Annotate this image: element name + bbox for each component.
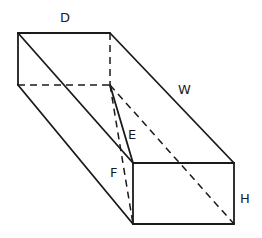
edge-width-w — [110, 33, 234, 163]
diagram-svg: D W E F H — [0, 0, 262, 238]
label-d: D — [60, 10, 70, 25]
box-diagram: D W E F H — [0, 0, 262, 238]
label-e: E — [128, 127, 136, 142]
edge-top-left-long — [18, 33, 133, 163]
diagonal-bottom-hidden — [110, 85, 234, 224]
label-h: H — [240, 191, 250, 206]
label-f: F — [110, 165, 117, 180]
label-w: W — [178, 82, 191, 97]
